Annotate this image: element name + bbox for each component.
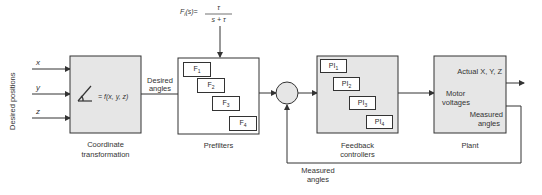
controller-pi2: PI2 <box>333 77 360 91</box>
feedback-controllers-caption-line1: Feedback <box>317 141 398 150</box>
prefilter-f4: F4 <box>229 116 257 131</box>
plant-input-label-line2: voltages <box>442 98 470 107</box>
desired-positions-label: Desired positions <box>8 72 17 130</box>
controller-pi3: PI3 <box>349 96 376 110</box>
controller-sub: 4 <box>381 121 384 127</box>
input-label-z: z <box>36 107 40 116</box>
transfer-function-denominator: s + τ <box>205 16 232 23</box>
controller-sub: 3 <box>364 102 367 108</box>
transfer-function-numerator: τ <box>205 4 232 11</box>
prefilter-sub: 1 <box>198 68 201 74</box>
input-label-y: y <box>36 83 40 92</box>
coordinate-caption-line1: Coordinate <box>70 140 141 149</box>
input-label-x: x <box>36 58 40 67</box>
tf-arg: (s)= <box>185 8 197 15</box>
prefilter-sub: 4 <box>244 122 247 128</box>
controller-sub: 1 <box>335 65 338 71</box>
plant-output-label: Actual X, Y, Z <box>440 67 502 76</box>
prefilter-sub: 3 <box>227 102 230 108</box>
prefilter-sub: 2 <box>212 84 215 90</box>
summing-junction <box>276 82 298 104</box>
controller-pi4: PI4 <box>366 115 393 129</box>
prefilter-f2: F2 <box>197 78 225 93</box>
plant-caption: Plant <box>434 141 506 150</box>
coordinate-equation: = f(x, y, z) <box>98 92 128 101</box>
transfer-function-lhs: Fi(s)= <box>180 8 198 17</box>
feedback-path-label-line2: angles <box>298 175 338 184</box>
desired-angles-label-line2: angles <box>142 84 178 93</box>
prefilters-caption: Prefilters <box>178 141 259 150</box>
controller-pi1: PI1 <box>320 59 347 73</box>
coordinate-caption-line2: transformation <box>70 150 141 159</box>
prefilter-f1: F1 <box>183 62 211 77</box>
plant-feedback-label-line1: Measured <box>460 110 503 119</box>
feedback-path-label-line1: Measured <box>298 166 338 175</box>
plant-input-label-line1: Motor <box>446 89 465 98</box>
feedback-controllers-caption-line2: controllers <box>317 150 398 159</box>
plant-feedback-label-line2: angles <box>460 119 500 128</box>
controller-sub: 2 <box>348 83 351 89</box>
prefilter-f3: F3 <box>212 96 240 111</box>
